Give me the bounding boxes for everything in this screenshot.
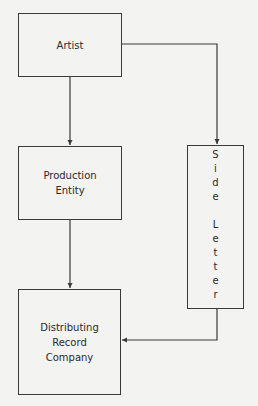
edge-side-letter-to-distributing (122, 309, 217, 340)
node-production-label-line2: Entity (43, 183, 96, 198)
node-production-label-line1: Production (43, 168, 96, 183)
side-letter-char: e (212, 190, 218, 204)
side-letter-char: S (212, 148, 218, 162)
side-letter-char: i (214, 162, 217, 176)
side-letter-char: e (212, 274, 218, 288)
side-letter-char: e (212, 232, 218, 246)
node-distributing-record-company: Distributing Record Company (18, 289, 121, 395)
node-distributing-label-line2: Record (40, 335, 99, 350)
side-letter-char: L (213, 218, 219, 232)
node-side-letter: S i d e L e t t e r (187, 145, 244, 309)
side-letter-char: d (212, 176, 218, 190)
edge-artist-to-side-letter (122, 44, 217, 144)
node-artist-label: Artist (57, 38, 84, 53)
node-side-letter-label: S i d e L e t t e r (212, 148, 218, 302)
node-distributing-label-line1: Distributing (40, 320, 99, 335)
node-artist: Artist (18, 13, 122, 77)
side-letter-char: t (214, 246, 218, 260)
node-distributing-label-line3: Company (40, 350, 99, 365)
side-letter-char: r (213, 288, 217, 302)
side-letter-char: t (214, 260, 218, 274)
node-production-entity: Production Entity (18, 146, 122, 220)
